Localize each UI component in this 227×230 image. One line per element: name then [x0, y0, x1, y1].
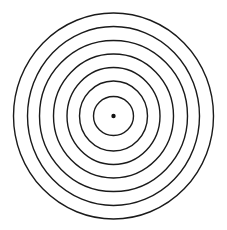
rings-graphic — [0, 0, 227, 230]
concentric-circles-diagram — [0, 0, 227, 230]
center-dot — [111, 114, 115, 118]
